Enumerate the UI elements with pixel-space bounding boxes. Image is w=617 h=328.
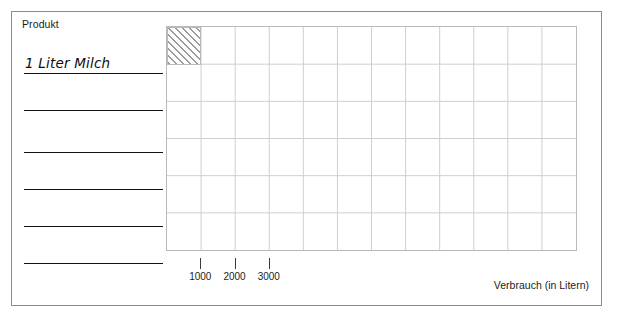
answer-rule-3	[24, 189, 163, 190]
x-axis: 100020003000	[166, 251, 577, 299]
x-axis-title: Verbrauch (in Litern)	[494, 279, 589, 291]
x-tick-3000	[269, 258, 270, 269]
bar-chart-plot-area[interactable]	[166, 26, 577, 251]
answer-rule-4	[24, 226, 163, 227]
x-tick-2000	[235, 258, 236, 269]
answer-rule-1	[24, 110, 163, 111]
x-tick-label-1000: 1000	[189, 271, 211, 282]
chart-bars-layer	[167, 27, 576, 250]
answer-rule-0	[24, 73, 163, 74]
x-tick-label-3000: 3000	[258, 271, 280, 282]
x-tick-label-2000: 2000	[223, 271, 245, 282]
answer-rule-5	[24, 263, 163, 264]
x-tick-1000	[200, 258, 201, 269]
bar-0	[167, 27, 201, 65]
answer-rule-2	[24, 152, 163, 153]
worksheet-frame: Produkt 1 Liter Milch	[11, 11, 602, 306]
product-answer-list: 1 Liter Milch	[12, 12, 172, 305]
product-name-0: 1 Liter Milch	[25, 55, 110, 71]
